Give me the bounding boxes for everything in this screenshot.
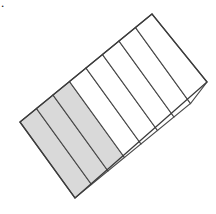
figure-canvas: . [0, 0, 216, 214]
partitioned-rectangle-figure [0, 0, 216, 214]
